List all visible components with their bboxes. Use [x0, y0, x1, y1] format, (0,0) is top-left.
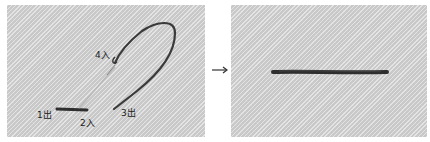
arrow-right-icon: [211, 64, 229, 76]
finished-stitch-illustration: [231, 5, 427, 137]
label-point-1: 1出: [37, 111, 52, 120]
label-point-4: 4入: [95, 51, 110, 60]
photo-stitch-in-progress: 1出 2入 3出 4入: [7, 5, 205, 137]
label-point-2: 2入: [80, 119, 95, 128]
photo-stitch-finished: [231, 5, 427, 137]
label-point-3: 3出: [121, 109, 136, 118]
